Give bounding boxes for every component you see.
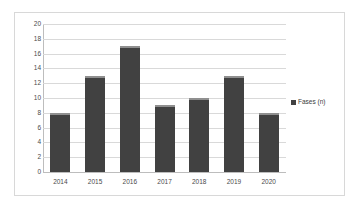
bar-series-fases (43, 24, 286, 172)
bar-2019 (224, 76, 244, 172)
bar-2015 (85, 76, 105, 172)
y-axis-tick-label: 6 (19, 124, 41, 131)
legend-label: Fases (n) (298, 99, 325, 106)
bar-slot (147, 24, 182, 172)
bar-2014 (50, 113, 70, 172)
bar-slot (78, 24, 113, 172)
bar-2018 (189, 98, 209, 172)
x-axis-tick-label: 2019 (217, 174, 252, 190)
y-axis-tick-label: 4 (19, 139, 41, 146)
y-axis-tick-label: 2 (19, 154, 41, 161)
y-axis-tick-label: 16 (19, 50, 41, 57)
x-axis-tick-label: 2014 (43, 174, 78, 190)
x-axis-tick-label: 2018 (182, 174, 217, 190)
bar-2016 (120, 46, 140, 172)
y-axis-tick-label: 20 (19, 21, 41, 28)
x-axis-tick-label: 2017 (147, 174, 182, 190)
bar-slot (251, 24, 286, 172)
plot-area (43, 24, 286, 172)
y-axis-tick-label: 10 (19, 95, 41, 102)
y-axis-tick-label: 18 (19, 36, 41, 43)
bar-2017 (155, 105, 175, 172)
y-axis-tick-label: 0 (19, 169, 41, 176)
chart-legend: Fases (n) (291, 99, 325, 106)
bar-slot (217, 24, 252, 172)
bar-2020 (259, 113, 279, 172)
x-axis: 2014201520162017201820192020 (43, 174, 286, 190)
chart-plot-wrapper: 20181614121086420 2014201520162017201820… (15, 13, 344, 195)
bar-slot (182, 24, 217, 172)
x-axis-tick-label: 2020 (251, 174, 286, 190)
y-axis-tick-label: 8 (19, 110, 41, 117)
y-axis-tick-label: 12 (19, 80, 41, 87)
y-axis-tick-label: 14 (19, 65, 41, 72)
y-axis: 20181614121086420 (19, 24, 41, 172)
chart-container: 20181614121086420 2014201520162017201820… (14, 12, 345, 196)
legend-swatch-icon (291, 100, 296, 105)
bar-slot (112, 24, 147, 172)
gridline (43, 172, 286, 173)
x-axis-tick-label: 2016 (112, 174, 147, 190)
x-axis-tick-label: 2015 (78, 174, 113, 190)
bar-slot (43, 24, 78, 172)
